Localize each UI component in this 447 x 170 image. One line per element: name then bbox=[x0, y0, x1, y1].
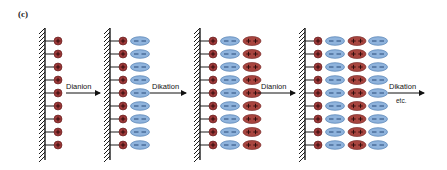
dianion-icon bbox=[326, 141, 345, 150]
dianion-icon bbox=[369, 76, 388, 85]
dianion-icon bbox=[221, 102, 240, 111]
dianion-icon bbox=[131, 50, 150, 59]
dication-icon bbox=[243, 141, 261, 150]
stage-3 bbox=[194, 28, 261, 162]
dianion-icon bbox=[369, 63, 388, 72]
dication-icon bbox=[348, 89, 366, 98]
dianion-icon bbox=[221, 50, 240, 59]
dianion-icon bbox=[221, 141, 240, 150]
dication-icon bbox=[348, 63, 366, 72]
arrow-label-1: Dianion bbox=[66, 82, 91, 91]
dication-icon bbox=[243, 102, 261, 111]
dianion-icon bbox=[369, 102, 388, 111]
dianion-icon bbox=[131, 63, 150, 72]
dication-icon bbox=[348, 128, 366, 137]
dianion-icon bbox=[326, 89, 345, 98]
dianion-icon bbox=[131, 115, 150, 124]
arrow-label-3: Dianion bbox=[261, 82, 286, 91]
stage-4 bbox=[299, 28, 388, 162]
dication-icon bbox=[348, 50, 366, 59]
dianion-icon bbox=[369, 37, 388, 46]
dianion-icon bbox=[221, 115, 240, 124]
dianion-icon bbox=[326, 115, 345, 124]
dication-icon bbox=[348, 37, 366, 46]
dianion-icon bbox=[326, 128, 345, 137]
dication-icon bbox=[243, 63, 261, 72]
dianion-icon bbox=[326, 63, 345, 72]
dication-icon bbox=[243, 76, 261, 85]
dication-icon bbox=[348, 141, 366, 150]
dication-icon bbox=[348, 76, 366, 85]
dianion-icon bbox=[369, 128, 388, 137]
dianion-icon bbox=[369, 89, 388, 98]
dication-icon bbox=[348, 102, 366, 111]
stage-1 bbox=[39, 28, 62, 162]
dication-icon bbox=[243, 115, 261, 124]
dication-icon bbox=[348, 115, 366, 124]
dianion-icon bbox=[326, 50, 345, 59]
dianion-icon bbox=[326, 37, 345, 46]
dianion-icon bbox=[369, 50, 388, 59]
dianion-icon bbox=[326, 76, 345, 85]
dianion-icon bbox=[131, 76, 150, 85]
dianion-icon bbox=[131, 141, 150, 150]
dianion-icon bbox=[221, 37, 240, 46]
arrow-sublabel-etc: etc. bbox=[396, 97, 406, 104]
arrow-label-4: Dikation bbox=[389, 82, 416, 91]
dication-icon bbox=[243, 37, 261, 46]
dianion-icon bbox=[326, 102, 345, 111]
dianion-icon bbox=[131, 128, 150, 137]
dianion-icon bbox=[369, 115, 388, 124]
arrow-label-2: Dikation bbox=[152, 82, 179, 91]
dianion-icon bbox=[369, 141, 388, 150]
dianion-icon bbox=[131, 37, 150, 46]
dianion-icon bbox=[221, 63, 240, 72]
dication-icon bbox=[243, 128, 261, 137]
dication-icon bbox=[243, 50, 261, 59]
dianion-icon bbox=[221, 89, 240, 98]
stage-2 bbox=[104, 28, 150, 162]
dianion-icon bbox=[131, 102, 150, 111]
dianion-icon bbox=[221, 76, 240, 85]
dianion-icon bbox=[131, 89, 150, 98]
dianion-icon bbox=[221, 128, 240, 137]
